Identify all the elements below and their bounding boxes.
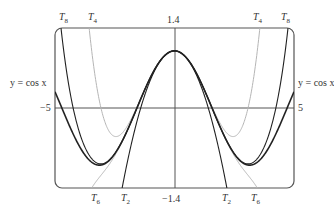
label-t4-top-left: T4 — [88, 12, 97, 25]
cos-label-left: y = cos x — [10, 78, 46, 88]
y-bottom-tick-label: −1.4 — [162, 194, 180, 204]
label-t6-bottom-right: T6 — [251, 193, 260, 206]
x-left-tick-label: −5 — [40, 103, 51, 113]
x-right-tick-label: 5 — [298, 103, 303, 113]
label-t8-top-right: T8 — [281, 12, 290, 25]
label-t2-bottom-right: T2 — [222, 193, 231, 206]
y-top-tick-label: 1.4 — [167, 15, 180, 25]
label-t2-bottom-left: T2 — [121, 193, 130, 206]
label-t4-top-right: T4 — [253, 12, 262, 25]
cos-label-right: y = cos x — [298, 78, 334, 88]
label-t8-top-left: T8 — [59, 12, 68, 25]
label-t6-bottom-left: T6 — [91, 193, 100, 206]
